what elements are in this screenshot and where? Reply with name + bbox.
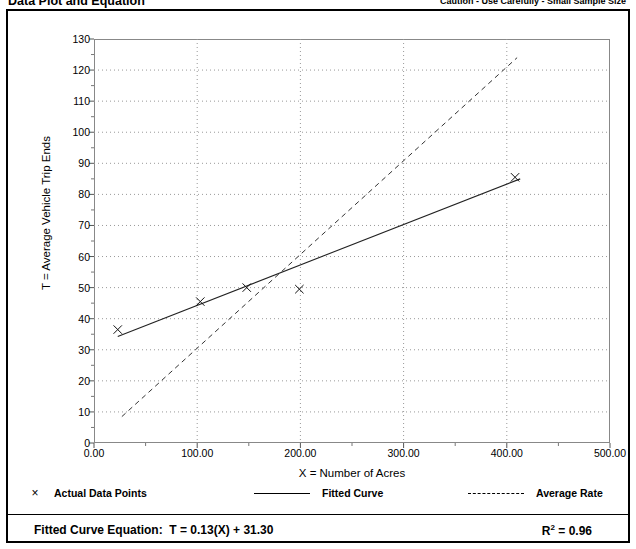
legend-label: Actual Data Points	[54, 487, 147, 499]
x-tick-label: 500.00	[580, 447, 636, 459]
legend-item-average-rate: Average Rate	[468, 487, 603, 499]
series-actual-data-points	[114, 173, 520, 334]
equation-footer: Fitted Curve Equation: T = 0.13(X) + 31.…	[8, 515, 628, 541]
x-axis-title: X = Number of Acres	[94, 467, 610, 479]
legend-label: Fitted Curve	[322, 487, 383, 499]
x-axis-tick-labels: 0.00100.00200.00300.00400.00500.00	[94, 447, 610, 465]
x-marker-icon: ×	[28, 487, 42, 499]
r2-label: R	[542, 524, 551, 538]
chart-legend: × Actual Data Points Fitted Curve Averag…	[8, 487, 628, 513]
y-tick-label: 90	[64, 158, 90, 168]
chart-area: 0102030405060708090100110120130 0.00100.…	[8, 11, 628, 481]
fitted-curve-equation: Fitted Curve Equation: T = 0.13(X) + 31.…	[34, 523, 273, 537]
y-tick-label: 110	[64, 96, 90, 106]
y-tick-label: 30	[64, 345, 90, 355]
axis-ticks	[89, 39, 610, 448]
y-tick-label: 60	[64, 252, 90, 262]
x-tick-label: 0.00	[64, 447, 124, 459]
y-tick-label: 130	[64, 34, 90, 44]
equation-label: Fitted Curve Equation:	[34, 523, 163, 537]
x-tick-label: 300.00	[374, 447, 434, 459]
x-tick-label: 400.00	[477, 447, 537, 459]
y-tick-label: 10	[64, 407, 90, 417]
legend-item-actual-data-points: × Actual Data Points	[28, 487, 147, 499]
series-fitted-curve	[118, 179, 520, 337]
y-axis-tick-labels: 0102030405060708090100110120130	[60, 39, 90, 443]
plot-graphics	[8, 11, 628, 481]
chart-panel: 0102030405060708090100110120130 0.00100.…	[6, 9, 630, 543]
x-tick-label: 200.00	[270, 447, 330, 459]
caution-note: Caution - Use Carefully - Small Sample S…	[440, 0, 626, 6]
dashed-line-icon	[468, 487, 524, 499]
y-tick-label: 80	[64, 189, 90, 199]
r-squared-value: R2 = 0.96	[542, 523, 592, 538]
y-tick-label: 70	[64, 220, 90, 230]
series-average-rate	[122, 58, 517, 417]
equation-value: T = 0.13(X) + 31.30	[169, 523, 273, 537]
y-axis-title: T = Average Vehicle Trip Ends	[40, 83, 52, 343]
y-tick-label: 120	[64, 65, 90, 75]
legend-label: Average Rate	[536, 487, 603, 499]
page-title: Data Plot and Equation	[8, 0, 145, 8]
legend-item-fitted-curve: Fitted Curve	[254, 487, 383, 499]
y-tick-label: 100	[64, 127, 90, 137]
r2-exponent: 2	[551, 523, 555, 532]
y-tick-label: 40	[64, 314, 90, 324]
r2-number: = 0.96	[558, 524, 592, 538]
y-tick-label: 50	[64, 283, 90, 293]
report-header: Data Plot and Equation Caution - Use Car…	[0, 0, 636, 9]
grid-lines	[94, 39, 610, 443]
y-tick-label: 20	[64, 376, 90, 386]
solid-line-icon	[254, 487, 310, 499]
x-tick-label: 100.00	[167, 447, 227, 459]
